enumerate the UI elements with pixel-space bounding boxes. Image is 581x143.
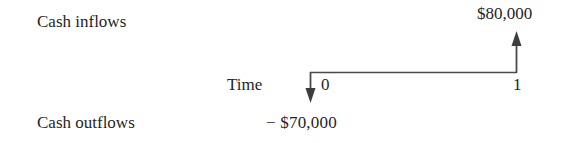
- outflow-amount-period-0: − $70,000: [266, 114, 337, 131]
- cash-flow-timeline-diagram: Cash inflows Cash outflows Time 0 1 $80,…: [0, 0, 581, 143]
- inflow-arrowhead-icon: [512, 31, 522, 46]
- cash-inflows-row-label: Cash inflows: [37, 13, 126, 30]
- time-axis-label: Time: [227, 76, 262, 93]
- inflow-amount-period-1: $80,000: [477, 5, 532, 22]
- tick-label-period-1: 1: [513, 76, 522, 93]
- cash-outflows-row-label: Cash outflows: [37, 114, 135, 131]
- tick-label-period-0: 0: [321, 76, 330, 93]
- outflow-arrowhead-icon: [306, 88, 316, 103]
